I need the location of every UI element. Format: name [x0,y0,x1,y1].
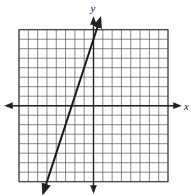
y-axis-label: y [90,2,96,14]
x-axis-label: x [183,100,189,112]
coordinate-plane: x y [0,0,191,195]
